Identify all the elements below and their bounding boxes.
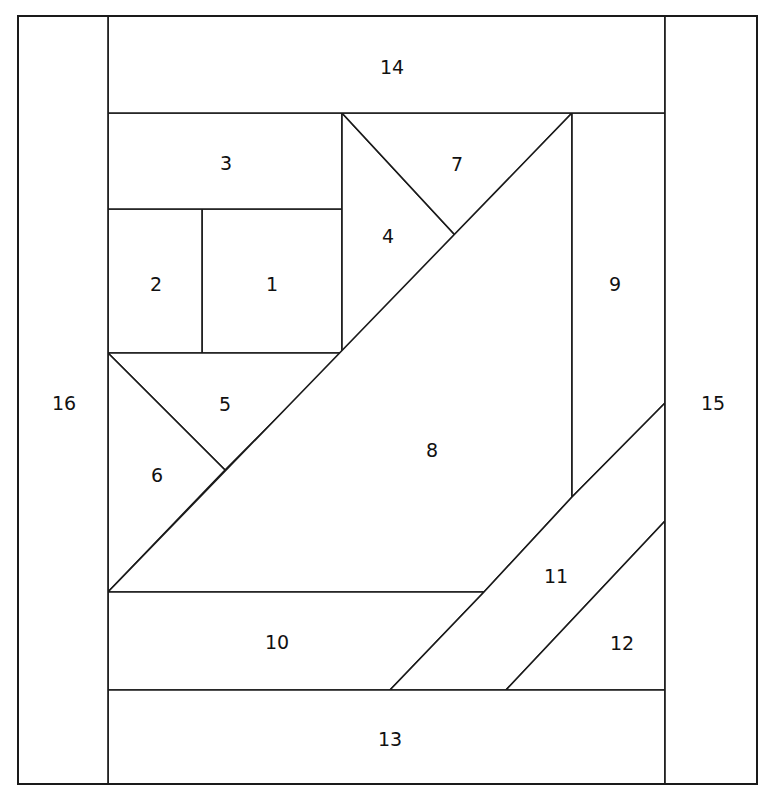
piece-label-14: 14 (380, 56, 404, 78)
quilt-block-diagram: 12345678910111213141516 (0, 0, 771, 803)
piece-label-6: 6 (151, 464, 163, 486)
piece-label-3: 3 (220, 152, 232, 174)
piece-label-9: 9 (609, 273, 621, 295)
piece-label-15: 15 (701, 392, 725, 414)
piece-label-12: 12 (610, 632, 634, 654)
piece-label-11: 11 (544, 565, 568, 587)
piece-label-5: 5 (219, 393, 231, 415)
piece-label-7: 7 (451, 153, 463, 175)
quilt-block-svg-canvas: 12345678910111213141516 (0, 0, 771, 803)
piece-label-16: 16 (52, 392, 76, 414)
piece-label-8: 8 (426, 439, 438, 461)
piece-label-10: 10 (265, 631, 289, 653)
piece-label-4: 4 (382, 225, 394, 247)
piece-shapes-group (18, 16, 757, 784)
piece-label-2: 2 (150, 273, 162, 295)
piece-label-13: 13 (378, 728, 402, 750)
piece-label-1: 1 (266, 273, 278, 295)
